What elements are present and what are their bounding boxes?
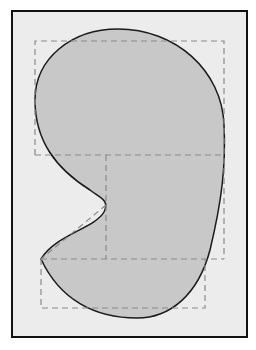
diagram-canvas [0, 0, 256, 350]
